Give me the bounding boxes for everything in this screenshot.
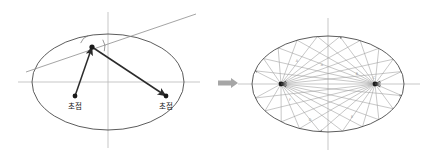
figure-root: 초점 초점 AABCDEF [0, 0, 432, 157]
diagram-canvas: 초점 초점 AABCDEF [0, 0, 432, 157]
reflected-ray-segment [265, 84, 375, 111]
rightwards-block-arrow-icon [218, 78, 238, 88]
reflected-ray-segment [255, 71, 281, 84]
tangent-line [26, 14, 196, 72]
reflected-ray-segment [281, 84, 402, 96]
ray-tag: F [289, 98, 291, 102]
left-focus-label: 초점 [68, 101, 82, 111]
reflected-ray-segment [278, 48, 281, 84]
reflected-ray-segment [264, 59, 281, 84]
ray-tag: B [356, 72, 359, 76]
reflected-ray-segment [375, 48, 379, 84]
left-panel: 초점 초점 [18, 12, 200, 148]
reflected-ray-segment [281, 84, 343, 131]
reflected-ray-segment [375, 84, 379, 120]
reflected-ray-segment [255, 84, 281, 98]
right-panel: AABCDEF [238, 18, 420, 150]
outgoing-light-ray [92, 47, 166, 96]
left-focus-dot [73, 94, 78, 99]
ray-tag-group: AABCDEF [289, 59, 376, 122]
tangent-point-dot [89, 44, 94, 49]
ray-tag: D [309, 118, 312, 122]
ray-tag: A [321, 63, 324, 67]
reflected-ray-segment [265, 84, 281, 111]
right-focus-label: 초점 [159, 101, 173, 111]
ray-tag: E [351, 115, 353, 119]
reflected-ray-segment [281, 72, 401, 84]
transition-arrow [218, 78, 238, 88]
right-focus-dot [164, 94, 169, 99]
reflected-ray-segment [375, 59, 393, 84]
reflected-ray-segment [297, 40, 375, 84]
